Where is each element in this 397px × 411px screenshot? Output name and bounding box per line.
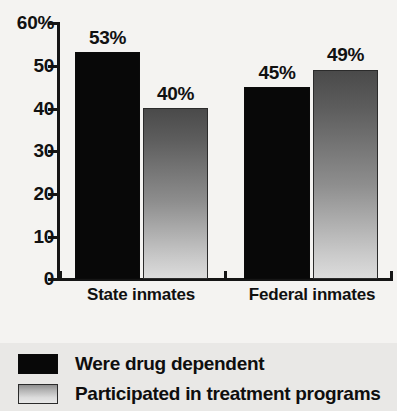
y-axis-label-60: 60% (17, 13, 54, 32)
legend-swatch-gradient-gray-icon (18, 384, 58, 404)
bar-federal-drug-dependent (244, 87, 310, 279)
y-axis-label-20: 20 (33, 184, 54, 203)
y-axis-label-50: 50 (33, 56, 54, 75)
legend-swatch-solid-black-icon (18, 354, 58, 374)
legend-label-treatment-programs: Participated in treatment programs (75, 383, 381, 405)
bar-label-state-drug-dependent: 53% (75, 28, 140, 47)
chart-legend: Were drug dependent Participated in trea… (0, 343, 397, 411)
x-axis-tick-left (59, 271, 62, 281)
y-axis-label-40: 40 (33, 99, 54, 118)
bar-label-federal-treatment-programs: 49% (313, 45, 378, 64)
bar-federal-treatment-programs (313, 70, 378, 279)
y-axis-label-30: 30 (33, 141, 54, 160)
x-axis-tick-middle (224, 271, 227, 281)
category-label-federal-inmates: Federal inmates (232, 286, 392, 303)
bar-label-state-treatment-programs: 40% (143, 84, 208, 103)
y-axis-label-0: 0 (44, 269, 54, 288)
legend-label-drug-dependent: Were drug dependent (75, 353, 264, 375)
x-axis-tick-right (390, 271, 393, 281)
bar-chart: 60% 50 40 30 20 10 0 53% 40% 45% 49% Sta… (0, 0, 397, 343)
bar-label-federal-drug-dependent: 45% (244, 63, 310, 82)
bar-state-treatment-programs (143, 108, 208, 279)
bar-state-drug-dependent (75, 52, 140, 279)
y-axis-label-10: 10 (33, 227, 54, 246)
category-label-state-inmates: State inmates (66, 286, 216, 303)
